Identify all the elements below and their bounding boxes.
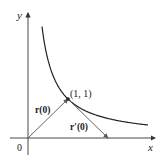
tangent-vector-r-prime-0 (68, 99, 108, 138)
hyperbola-curve (42, 27, 148, 125)
point-label: (1, 1) (70, 88, 92, 100)
origin-label: 0 (17, 142, 22, 153)
tangent-vector-label: r′(0) (70, 122, 88, 133)
diagram: y x 0 (1, 1) r(0) r′(0) (0, 0, 165, 163)
position-vector-label: r(0) (35, 105, 50, 116)
x-axis-label: x (147, 141, 153, 153)
y-axis-label: y (16, 9, 22, 21)
